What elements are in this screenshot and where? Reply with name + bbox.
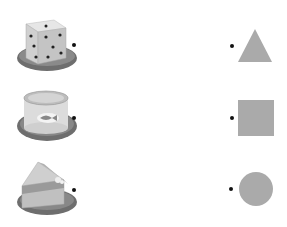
tin-can-object xyxy=(14,88,80,144)
triangle-shape xyxy=(237,28,273,64)
square-icon xyxy=(238,100,274,136)
cake-slice-match-dot[interactable] xyxy=(72,188,76,192)
dice-match-dot[interactable] xyxy=(72,43,76,47)
triangle-icon xyxy=(237,28,273,64)
dice-object xyxy=(14,14,80,72)
tin-can-icon xyxy=(14,88,80,144)
triangle-match-dot[interactable] xyxy=(230,44,234,48)
circle-match-dot[interactable] xyxy=(229,187,233,191)
circle-shape xyxy=(238,171,274,207)
tin-can-match-dot[interactable] xyxy=(72,116,76,120)
square-shape xyxy=(238,100,274,136)
dice-icon xyxy=(14,14,80,72)
circle-icon xyxy=(238,171,274,207)
square-match-dot[interactable] xyxy=(230,116,234,120)
cake-slice-object xyxy=(14,158,80,216)
cake-slice-icon xyxy=(14,158,80,216)
